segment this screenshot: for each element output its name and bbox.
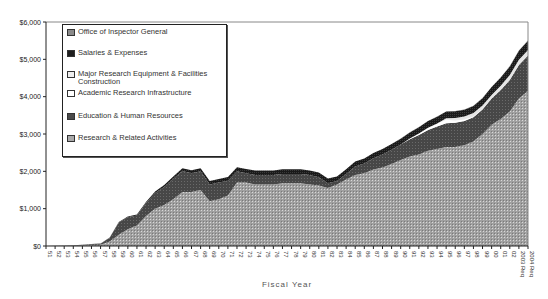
x-tick-label: 93 — [429, 251, 435, 258]
legend-label: Academic Research Infrastructure — [78, 89, 222, 97]
x-tick-label: 64 — [165, 251, 171, 258]
x-tick-label: 61 — [138, 251, 144, 258]
legend-item-salaries-expenses: Salaries & Expenses — [67, 44, 222, 67]
legend-label: Salaries & Expenses — [78, 49, 222, 57]
x-tick-label: 90 — [402, 251, 408, 258]
x-tick-label: 97 — [465, 251, 471, 258]
x-tick-label: 63 — [156, 251, 162, 258]
x-tick-label: 65 — [174, 251, 180, 258]
x-tick-label: 96 — [456, 251, 462, 258]
x-tick-label: 81 — [320, 251, 326, 258]
legend-label: Education & Human Resources — [78, 112, 222, 120]
x-tick-label: 78 — [293, 251, 299, 258]
y-tick-label: $2,000 — [20, 168, 42, 175]
x-tick-label: 71 — [229, 251, 235, 258]
x-tick-label: 55 — [83, 251, 89, 258]
x-tick-label: 88 — [383, 251, 389, 258]
legend-label: Office of Inspector General — [78, 28, 222, 36]
x-tick-label: 68 — [202, 251, 208, 258]
legend-swatch-mrefc — [67, 71, 75, 78]
x-tick-label: 00 — [493, 251, 499, 258]
y-tick-label: $3,000 — [20, 131, 42, 138]
y-tick-label: $4,000 — [20, 93, 42, 100]
x-tick-label: 56 — [92, 251, 98, 258]
x-tick-label: 72 — [238, 251, 244, 258]
x-axis: 5152535455565758596061626364656667686970… — [46, 246, 535, 277]
x-tick-label: 85 — [356, 251, 362, 258]
legend-swatch-ari — [67, 90, 75, 97]
x-tick-label: 60 — [129, 251, 135, 258]
x-tick-label: 51 — [47, 251, 53, 258]
x-tick-label: 69 — [211, 251, 217, 258]
x-tick-label: 83 — [338, 251, 344, 258]
x-tick-label: 01 — [502, 251, 508, 258]
x-tick-label: 2004 Req — [529, 251, 535, 277]
x-tick-label: 77 — [283, 251, 289, 258]
x-tick-label: 87 — [374, 251, 380, 258]
legend-swatch-oig — [67, 29, 75, 36]
y-axis: $0$1,000$2,000$3,000$4,000$5,000$6,000 — [20, 19, 46, 250]
x-tick-label: 89 — [393, 251, 399, 258]
chart-legend: Office of Inspector General Salaries & E… — [62, 24, 227, 157]
x-tick-label: 94 — [438, 251, 444, 258]
x-tick-label: 59 — [120, 251, 126, 258]
legend-item-major-research-equipment: Major Research Equipment & Facilities Co… — [67, 67, 222, 89]
y-tick-label: $5,000 — [20, 56, 42, 63]
legend-swatch-salaries — [67, 50, 75, 57]
legend-label: Research & Related Activities — [78, 134, 222, 142]
x-tick-label: 76 — [274, 251, 280, 258]
y-tick-label: $6,000 — [20, 19, 42, 26]
x-tick-label: 98 — [474, 251, 480, 258]
x-tick-label: 67 — [193, 251, 199, 258]
x-tick-label: 66 — [183, 251, 189, 258]
x-tick-label: 91 — [411, 251, 417, 258]
legend-swatch-rra — [67, 135, 75, 142]
x-tick-label: 54 — [74, 251, 80, 258]
x-tick-label: 53 — [65, 251, 71, 258]
legend-item-research-related-activities: Research & Related Activities — [67, 131, 222, 151]
x-tick-label: 75 — [265, 251, 271, 258]
x-tick-label: 86 — [365, 251, 371, 258]
legend-item-education-human-resources: Education & Human Resources — [67, 109, 222, 131]
x-tick-label: 99 — [484, 251, 490, 258]
x-tick-label: 95 — [447, 251, 453, 258]
x-tick-label: 62 — [147, 251, 153, 258]
x-axis-title: Fiscal Year — [262, 280, 312, 289]
legend-item-academic-research-infrastructure: Academic Research Infrastructure — [67, 89, 222, 109]
y-tick-label: $0 — [33, 243, 41, 250]
legend-swatch-ehr — [67, 113, 75, 120]
x-tick-label: 74 — [256, 251, 262, 258]
x-tick-label: 92 — [420, 251, 426, 258]
x-tick-label: 2003 Req — [520, 251, 526, 277]
x-tick-label: 57 — [102, 251, 108, 258]
y-tick-label: $1,000 — [20, 205, 42, 212]
legend-item-office-of-inspector-general: Office of Inspector General — [67, 28, 222, 44]
x-tick-label: 84 — [347, 251, 353, 258]
x-tick-label: 80 — [311, 251, 317, 258]
x-tick-label: 58 — [111, 251, 117, 258]
x-tick-label: 70 — [220, 251, 226, 258]
x-tick-label: 79 — [302, 251, 308, 258]
x-tick-label: 02 — [511, 251, 517, 258]
x-tick-label: 52 — [56, 251, 62, 258]
x-tick-label: 73 — [247, 251, 253, 258]
x-tick-label: 82 — [329, 251, 335, 258]
legend-label: Major Research Equipment & Facilities Co… — [78, 70, 222, 86]
